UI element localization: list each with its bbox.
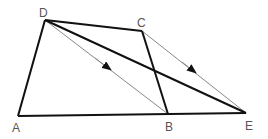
segment-AE — [18, 113, 246, 116]
arrow-CE — [182, 62, 196, 73]
segment-CB — [142, 31, 168, 114]
segment-DC — [45, 20, 142, 31]
label-D: D — [39, 6, 48, 20]
geometry-diagram: A B C D E — [0, 0, 268, 139]
label-E: E — [245, 119, 253, 133]
segment-AD — [18, 20, 45, 116]
arrow-DB — [95, 58, 111, 70]
label-C: C — [137, 16, 146, 30]
label-A: A — [12, 121, 20, 135]
label-B: B — [165, 120, 173, 134]
